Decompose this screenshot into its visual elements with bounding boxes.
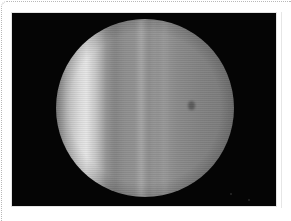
planet-photo <box>12 13 276 206</box>
background-speck <box>230 193 232 195</box>
scanline-texture <box>56 19 234 197</box>
background-speck <box>248 199 250 201</box>
frame-edge <box>281 12 282 208</box>
planet-disc <box>56 19 234 197</box>
